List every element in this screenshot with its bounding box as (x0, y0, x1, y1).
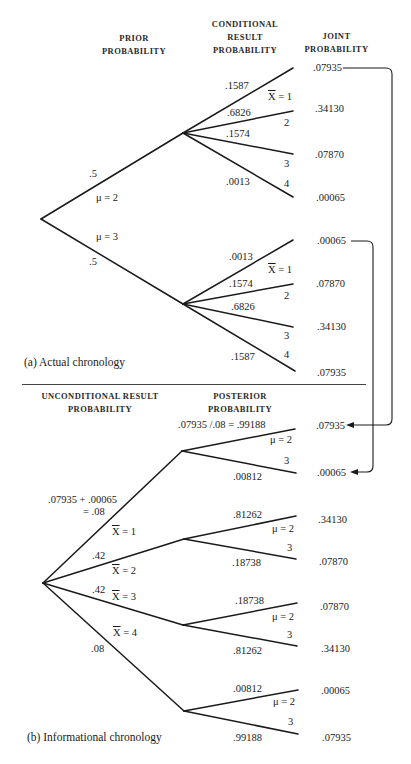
uncond-formula: .07935 + .00065 (48, 495, 117, 506)
header-conditional-result-probability: CONDITIONAL RESULT PROBABILITY (200, 18, 290, 57)
posterior-prob: .81262 (233, 510, 262, 521)
mu-label: μ = 2 (272, 524, 294, 535)
mu-top: μ = 2 (96, 193, 118, 204)
arrow-07935 (343, 68, 392, 425)
mu-bottom: μ = 3 (96, 232, 118, 243)
cond-prob: .1574 (229, 279, 253, 290)
joint-prob: .07870 (319, 557, 348, 568)
uncond-prob: .42 (92, 585, 105, 596)
branch-mu2 (41, 133, 183, 219)
joint-prob: .00065 (321, 686, 350, 697)
outcome-label: 2 (284, 291, 289, 302)
arrow-00065 (351, 241, 373, 472)
caption-actual-chronology: (a) Actual chronology (24, 356, 125, 368)
header-posterior-probability: POSTERIOR PROBABILITY (200, 390, 280, 416)
header-prior-probability: PRIOR PROBABILITY (84, 32, 184, 58)
section-divider (22, 384, 366, 385)
header-joint-probability: JOINT PROBABILITY (299, 30, 374, 56)
uncond-prob: .42 (92, 551, 105, 562)
posterior-prob: .18738 (235, 596, 264, 607)
mu-label: μ = 2 (273, 697, 295, 708)
joint-prob: .07935 (322, 733, 351, 744)
prior-top: .5 (89, 169, 97, 180)
outcome-label: 3 (284, 159, 289, 170)
posterior-prob: .00812 (233, 684, 262, 695)
xbar-4-label: X = 4 (113, 628, 137, 639)
joint-prob: .07935 (316, 421, 345, 432)
header-unconditional-result-probability: UNCONDITIONAL RESULT PROBABILITY (30, 390, 170, 416)
outcome-label: X = 1 (268, 265, 292, 276)
mu-label: 3 (284, 456, 289, 467)
mu-label: 3 (287, 630, 292, 641)
uncond-prob: .08 (91, 644, 104, 655)
mu-label: μ = 2 (270, 435, 292, 446)
cond-prob: .0013 (229, 252, 253, 263)
cond-prob: .1587 (225, 81, 249, 92)
posterior-prob: .18738 (232, 558, 261, 569)
xbar-2-label: X = 2 (112, 566, 136, 577)
posterior-prob: .00812 (233, 472, 262, 483)
cond-prob: .1587 (231, 352, 255, 363)
posterior-prob: .81262 (233, 646, 262, 657)
mu-label: 3 (288, 717, 293, 728)
uncond-formula-result: = .08 (83, 507, 105, 518)
joint-prob: .34130 (317, 322, 346, 333)
joint-prob: .07870 (315, 150, 344, 161)
outcome-label: 4 (284, 179, 289, 190)
prior-bottom: .5 (89, 257, 97, 268)
cond-prob: .6826 (227, 108, 251, 119)
joint-prob: .00065 (317, 236, 346, 247)
posterior-prob: .07935 /.08 = .99188 (178, 420, 266, 431)
joint-prob: .07935 (317, 368, 346, 379)
outcome-label: X = 1 (268, 92, 292, 103)
joint-prob: .00065 (316, 193, 345, 204)
xbar-3-label: X = 3 (112, 592, 136, 603)
joint-prob: .07935 (313, 63, 342, 74)
posterior-prob: .99188 (233, 733, 262, 744)
outcome-label: 4 (284, 350, 289, 361)
outcome-label: 2 (284, 118, 289, 129)
joint-prob: .00065 (317, 468, 346, 479)
outcome-label: 3 (284, 331, 289, 342)
xbar-1-label: X = 1 (112, 527, 136, 538)
cond-prob: .0013 (226, 177, 250, 188)
mu-label: 3 (287, 543, 292, 554)
joint-prob: .34130 (321, 644, 350, 655)
caption-informational-chronology: (b) Informational chronology (27, 731, 162, 743)
mu-label: μ = 2 (272, 612, 294, 623)
joint-prob: .07870 (316, 279, 345, 290)
joint-prob: .07870 (320, 602, 349, 613)
cond-prob: .1574 (226, 129, 250, 140)
joint-prob: .34130 (315, 104, 344, 115)
joint-prob: .34130 (318, 515, 347, 526)
cond-prob: .6826 (231, 302, 255, 313)
